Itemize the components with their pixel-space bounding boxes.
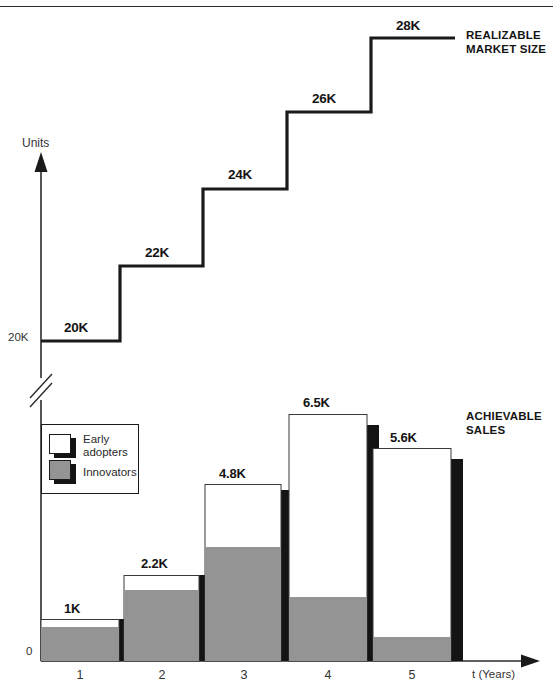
annotation-achievable-line2: SALES [466, 424, 505, 436]
legend-swatch-early-adopters-icon [49, 434, 77, 458]
y-axis-upper [35, 152, 48, 378]
bar-value-label-year-4: 6.5K [303, 395, 330, 410]
step-value-label-26k: 26K [312, 91, 336, 106]
legend-label-innovators: Innovators [83, 466, 137, 479]
annotation-achievable-line1: ACHIEVABLE [466, 410, 542, 422]
bar-innovators-year-1 [41, 627, 119, 661]
y-axis-tick-20k: 20K [8, 331, 28, 343]
bar-group-year-5[interactable] [373, 449, 463, 662]
step-value-label-24k: 24K [228, 167, 252, 182]
step-value-label-20k: 20K [64, 320, 88, 335]
bar-innovators-year-4 [289, 597, 367, 661]
bar-value-label-year-3: 4.8K [219, 466, 246, 481]
bar-group-year-1[interactable] [41, 619, 131, 661]
legend-label-early-adopters: Early adopters [83, 433, 128, 458]
x-axis-arrow [521, 655, 540, 668]
bar-group-year-3[interactable] [205, 485, 293, 662]
bar-value-label-year-5: 5.6K [390, 430, 417, 445]
x-tick-label-5: 5 [397, 668, 427, 682]
step-value-label-22k: 22K [145, 245, 169, 260]
chart-canvas [0, 0, 553, 695]
bar-early-adopters-year-5 [373, 449, 451, 662]
x-tick-label-3: 3 [229, 668, 259, 682]
x-tick-label-2: 2 [147, 668, 177, 682]
legend-label-early-adopters-line2: adopters [83, 446, 128, 458]
bar-value-label-year-2: 2.2K [141, 556, 168, 571]
legend-label-early-adopters-line1: Early [83, 433, 109, 445]
bar-group-year-2[interactable] [124, 575, 211, 661]
annotation-achievable-sales: ACHIEVABLE SALES [466, 409, 542, 437]
chart-page: Units 20K 0 20K 22K 24K 26K 28K 1K 2.2K … [0, 0, 553, 695]
annotation-realizable-market-size: REALIZABLE MARKET SIZE [466, 28, 546, 56]
step-line-realizable-market-size [41, 38, 455, 341]
legend-swatch-innovators-icon [49, 460, 77, 484]
legend-item-early-adopters[interactable]: Early adopters [49, 433, 128, 458]
x-axis-title: t (Years) [472, 668, 515, 680]
legend[interactable]: Early adopters Innovators [41, 424, 139, 494]
legend-item-innovators[interactable]: Innovators [49, 460, 137, 484]
y-axis-tick-0: 0 [26, 645, 32, 657]
step-value-label-28k: 28K [396, 18, 420, 33]
annotation-realizable-line2: MARKET SIZE [466, 43, 546, 55]
bar-value-label-year-1: 1K [64, 601, 80, 616]
y-axis-arrow-upper [35, 152, 48, 172]
bar-innovators-year-5 [373, 637, 451, 661]
bar-group-year-4[interactable] [289, 415, 379, 662]
bar-shadow-year-5 [451, 459, 463, 661]
bar-innovators-year-2 [124, 590, 199, 661]
x-tick-label-1: 1 [65, 668, 95, 682]
bar-innovators-year-3 [205, 547, 281, 661]
legend-label-innovators-line1: Innovators [83, 466, 137, 478]
x-tick-label-4: 4 [313, 668, 343, 682]
annotation-realizable-line1: REALIZABLE [466, 29, 541, 41]
y-axis-title: Units [22, 136, 49, 150]
